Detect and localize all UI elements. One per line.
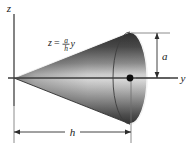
radius-dimension-group — [155, 33, 160, 78]
height-arrow-left — [14, 130, 20, 135]
height-arrow-right — [125, 130, 131, 135]
cone-diagram-canvas: z y a h z = a h y — [0, 0, 195, 157]
height-dimension-label: h — [70, 126, 76, 138]
radius-arrow-bottom — [155, 72, 160, 78]
z-axis-label: z — [6, 2, 12, 14]
radius-dimension-label: a — [162, 50, 168, 62]
equation-denominator: h — [64, 44, 68, 53]
equation-variable: y — [70, 38, 76, 49]
cone-figure: z y a h z = a h y — [0, 0, 195, 157]
equation-lhs: z — [47, 37, 52, 48]
equation-operator: = — [54, 37, 60, 48]
cone-equation: z = a h y — [47, 36, 76, 53]
y-axis-label: y — [180, 72, 186, 84]
base-center-dot — [127, 75, 134, 82]
radius-arrow-top — [155, 33, 160, 39]
